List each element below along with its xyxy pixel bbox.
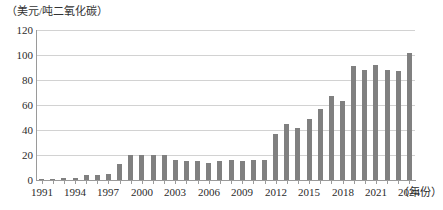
x-axis-tick bbox=[265, 181, 266, 184]
x-axis-tick bbox=[276, 181, 277, 184]
x-axis-tick-label: 1997 bbox=[91, 186, 125, 198]
bar bbox=[362, 70, 367, 180]
x-axis-tick bbox=[131, 181, 132, 184]
x-axis-tick bbox=[354, 181, 355, 184]
gridline bbox=[36, 30, 415, 31]
plot-area bbox=[36, 30, 415, 180]
x-axis-tick bbox=[343, 181, 344, 184]
x-axis-tick-label: 2000 bbox=[125, 186, 159, 198]
bar bbox=[251, 160, 256, 180]
x-axis-tick bbox=[175, 181, 176, 184]
bar bbox=[195, 161, 200, 180]
bar bbox=[151, 155, 156, 180]
x-axis-tick bbox=[331, 181, 332, 184]
x-axis-tick bbox=[75, 181, 76, 184]
bar bbox=[128, 155, 133, 180]
bar bbox=[373, 65, 378, 180]
bar bbox=[351, 66, 356, 180]
x-axis-tick bbox=[398, 181, 399, 184]
x-axis-tick bbox=[309, 181, 310, 184]
y-axis-tick-label: 0 bbox=[3, 175, 33, 186]
x-axis-tick bbox=[198, 181, 199, 184]
x-axis-tick bbox=[298, 181, 299, 184]
x-axis-tick bbox=[53, 181, 54, 184]
x-axis-tick-label: 2012 bbox=[259, 186, 293, 198]
bar bbox=[273, 134, 278, 180]
x-axis-tick-label: 2006 bbox=[192, 186, 226, 198]
gridline bbox=[36, 55, 415, 56]
x-axis-tick bbox=[64, 181, 65, 184]
x-axis-tick bbox=[409, 181, 410, 184]
x-axis-tick bbox=[186, 181, 187, 184]
x-axis-unit-label: （年份） bbox=[398, 186, 442, 198]
x-axis-tick bbox=[108, 181, 109, 184]
bar bbox=[217, 161, 222, 180]
bar bbox=[385, 70, 390, 180]
x-axis-tick bbox=[120, 181, 121, 184]
x-axis-tick bbox=[287, 181, 288, 184]
gridline bbox=[36, 155, 415, 156]
y-axis-tick-labels: 020406080100120 bbox=[0, 0, 33, 210]
x-axis-tick bbox=[142, 181, 143, 184]
bar bbox=[184, 161, 189, 180]
bar bbox=[117, 164, 122, 180]
bar bbox=[329, 96, 334, 180]
y-axis-tick-label: 80 bbox=[3, 75, 33, 86]
bar bbox=[173, 160, 178, 180]
bar bbox=[295, 128, 300, 181]
x-axis-tick-label: 2015 bbox=[292, 186, 326, 198]
y-axis-tick-label: 100 bbox=[3, 50, 33, 61]
bar bbox=[240, 161, 245, 180]
x-axis-tick bbox=[253, 181, 254, 184]
gridline bbox=[36, 80, 415, 81]
y-axis-tick-label: 60 bbox=[3, 100, 33, 111]
x-axis-tick-label: 2003 bbox=[158, 186, 192, 198]
x-axis-line bbox=[36, 180, 416, 181]
x-axis-tick bbox=[97, 181, 98, 184]
x-axis-tick bbox=[220, 181, 221, 184]
x-axis-tick bbox=[365, 181, 366, 184]
x-axis-tick bbox=[242, 181, 243, 184]
x-axis-tick-label: 1994 bbox=[58, 186, 92, 198]
x-axis-tick-label: 2018 bbox=[326, 186, 360, 198]
x-axis-tick bbox=[153, 181, 154, 184]
x-axis-tick-label: 1991 bbox=[25, 186, 59, 198]
y-axis-tick-label: 40 bbox=[3, 125, 33, 136]
bar bbox=[318, 109, 323, 180]
bar bbox=[162, 155, 167, 180]
x-axis-tick bbox=[42, 181, 43, 184]
y-axis-line bbox=[36, 30, 37, 181]
x-axis-tick bbox=[376, 181, 377, 184]
bar bbox=[284, 124, 289, 180]
bar bbox=[307, 119, 312, 180]
bar bbox=[396, 71, 401, 180]
x-axis-tick bbox=[231, 181, 232, 184]
y-axis-tick-label: 120 bbox=[3, 25, 33, 36]
y-axis-tick-label: 20 bbox=[3, 150, 33, 161]
bar bbox=[340, 101, 345, 180]
bar bbox=[206, 163, 211, 181]
bar bbox=[407, 53, 412, 181]
bar-chart: （美元/吨二氧化碳） 020406080100120 1991199419972… bbox=[0, 0, 443, 210]
x-axis-tick bbox=[209, 181, 210, 184]
x-axis-tick bbox=[164, 181, 165, 184]
gridline bbox=[36, 105, 415, 106]
bar bbox=[262, 160, 267, 180]
x-axis-tick-label: 2009 bbox=[225, 186, 259, 198]
x-axis-tick-label: 2021 bbox=[359, 186, 393, 198]
gridline bbox=[36, 130, 415, 131]
x-axis-tick bbox=[320, 181, 321, 184]
x-axis-tick bbox=[86, 181, 87, 184]
bar bbox=[139, 155, 144, 180]
bar bbox=[229, 160, 234, 180]
x-axis-tick bbox=[387, 181, 388, 184]
